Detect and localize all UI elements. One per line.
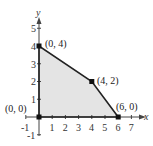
y-tick-label: 2 xyxy=(31,76,36,87)
x-tick-label: 1 xyxy=(50,122,55,133)
vertex-4-2 xyxy=(89,79,94,84)
x-tick-label: 4 xyxy=(89,122,94,133)
vertex-6-0 xyxy=(116,115,121,120)
y-tick-label: 4 xyxy=(31,41,36,52)
x-tick-label: 2 xyxy=(63,122,68,133)
point-label-6-0: (6, 0) xyxy=(116,101,138,113)
vertex-0-4 xyxy=(37,44,42,49)
y-axis-arrow-icon xyxy=(37,17,42,24)
y-tick-label: -1 xyxy=(27,130,35,141)
y-axis-label: y xyxy=(35,7,41,18)
y-tick-label: 3 xyxy=(31,59,36,70)
x-tick-label: 5 xyxy=(102,122,107,133)
x-axis-label: x xyxy=(143,111,149,122)
point-label-0-4: (0, 4) xyxy=(45,38,67,50)
x-tick-label: 7 xyxy=(129,122,134,133)
point-label-4-2: (4, 2) xyxy=(97,75,119,87)
feasible-region-chart: -1 1 2 3 4 5 6 7 -1 1 2 3 4 5 x y (0, 0)… xyxy=(0,0,153,146)
y-tick-label: 5 xyxy=(31,23,36,34)
x-tick-label: 6 xyxy=(116,122,121,133)
point-label-0-0: (0, 0) xyxy=(5,103,27,115)
x-tick-label: 3 xyxy=(76,122,81,133)
y-tick-label: 1 xyxy=(31,94,36,105)
vertex-0-0 xyxy=(37,115,42,120)
